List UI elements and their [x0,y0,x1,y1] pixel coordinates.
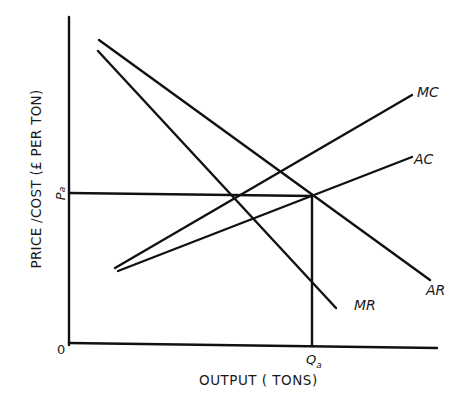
ac-curve [118,157,412,271]
mc-curve [115,95,412,268]
x-axis [69,343,437,348]
pa-label: Pa [53,187,68,200]
pa-label-sub: a [57,187,67,193]
y-axis-label: PRICE /COST (£ PER TON) [28,104,44,269]
mr-curve [98,51,336,308]
ar-curve [99,40,430,280]
pa-guide-line [69,193,312,196]
ar-label: AR [426,282,445,298]
origin-label: 0 [57,342,65,357]
pa-label-main: P [53,192,68,200]
mr-label: MR [354,297,376,313]
ac-label: AC [414,151,433,167]
qa-label: Qa [306,352,322,367]
chart-canvas [0,0,469,399]
mc-label: MC [417,84,439,100]
qa-label-main: Q [306,352,316,367]
x-axis-label: OUTPUT ( TONS) [199,372,318,388]
qa-label-sub: a [316,360,322,370]
